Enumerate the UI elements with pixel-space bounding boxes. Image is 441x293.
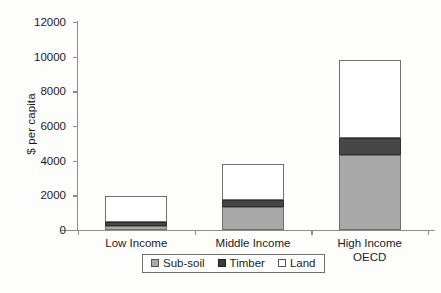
stacked-bar-chart: $ per capita 020004000600080001000012000… xyxy=(0,0,441,293)
y-axis-tick-label: 4000 xyxy=(40,153,66,169)
y-axis-tick: 4000 xyxy=(73,161,78,162)
x-axis-tick xyxy=(78,230,79,235)
legend-label-timber: Timber xyxy=(230,257,265,269)
bar-middle-income xyxy=(222,164,284,230)
y-axis-tick-label: 6000 xyxy=(40,118,66,134)
y-axis-tick-label: 0 xyxy=(60,222,66,238)
bar-segment-sub-soil xyxy=(222,207,284,230)
bar-segment-land xyxy=(222,164,284,200)
y-axis-title: $ per capita xyxy=(25,49,37,199)
bar-segment-land xyxy=(339,60,401,138)
legend-item-sub-soil: Sub-soil xyxy=(151,257,205,269)
y-axis-tick-label: 2000 xyxy=(40,187,66,203)
x-axis-label-high-income-oecd: High IncomeOECD xyxy=(311,236,428,264)
y-axis-tick-label: 10000 xyxy=(34,49,66,65)
legend-label-sub-soil: Sub-soil xyxy=(163,257,205,269)
y-axis-tick: 12000 xyxy=(73,22,78,23)
x-axis-tick xyxy=(195,230,196,235)
x-axis-label-line: OECD xyxy=(311,250,428,264)
y-axis-tick: 8000 xyxy=(73,91,78,92)
y-axis-tick: 10000 xyxy=(73,57,78,58)
x-axis-label-line: Low Income xyxy=(78,236,195,250)
bar-segment-timber xyxy=(339,138,401,155)
x-axis-label-line: Middle Income xyxy=(195,236,312,250)
y-axis-tick: 2000 xyxy=(73,195,78,196)
bar-segment-timber xyxy=(105,222,167,226)
bar-low-income xyxy=(105,196,167,230)
chart-legend: Sub-soil Timber Land xyxy=(142,254,325,273)
x-axis-tick xyxy=(311,230,312,235)
bar-segment-timber xyxy=(222,200,284,207)
x-axis-label-line: High Income xyxy=(311,236,428,250)
bar-segment-sub-soil xyxy=(339,155,401,230)
y-axis-tick-label: 8000 xyxy=(40,83,66,99)
x-axis-label-middle-income: Middle Income xyxy=(195,236,312,250)
legend-item-timber: Timber xyxy=(218,257,265,269)
x-axis-tick xyxy=(428,230,429,235)
y-axis-tick-label: 12000 xyxy=(34,14,66,30)
bar-segment-sub-soil xyxy=(105,226,167,230)
y-axis-tick: 6000 xyxy=(73,126,78,127)
bar-high-income-oecd xyxy=(339,60,401,230)
legend-item-land: Land xyxy=(278,257,316,269)
plot-area: 020004000600080001000012000 xyxy=(78,22,428,230)
legend-swatch-sub-soil-icon xyxy=(151,259,159,267)
legend-swatch-land-icon xyxy=(278,259,286,267)
bar-segment-land xyxy=(105,196,167,222)
legend-label-land: Land xyxy=(290,257,316,269)
legend-swatch-timber-icon xyxy=(218,259,226,267)
x-axis-line xyxy=(60,230,435,231)
x-axis-label-low-income: Low Income xyxy=(78,236,195,250)
